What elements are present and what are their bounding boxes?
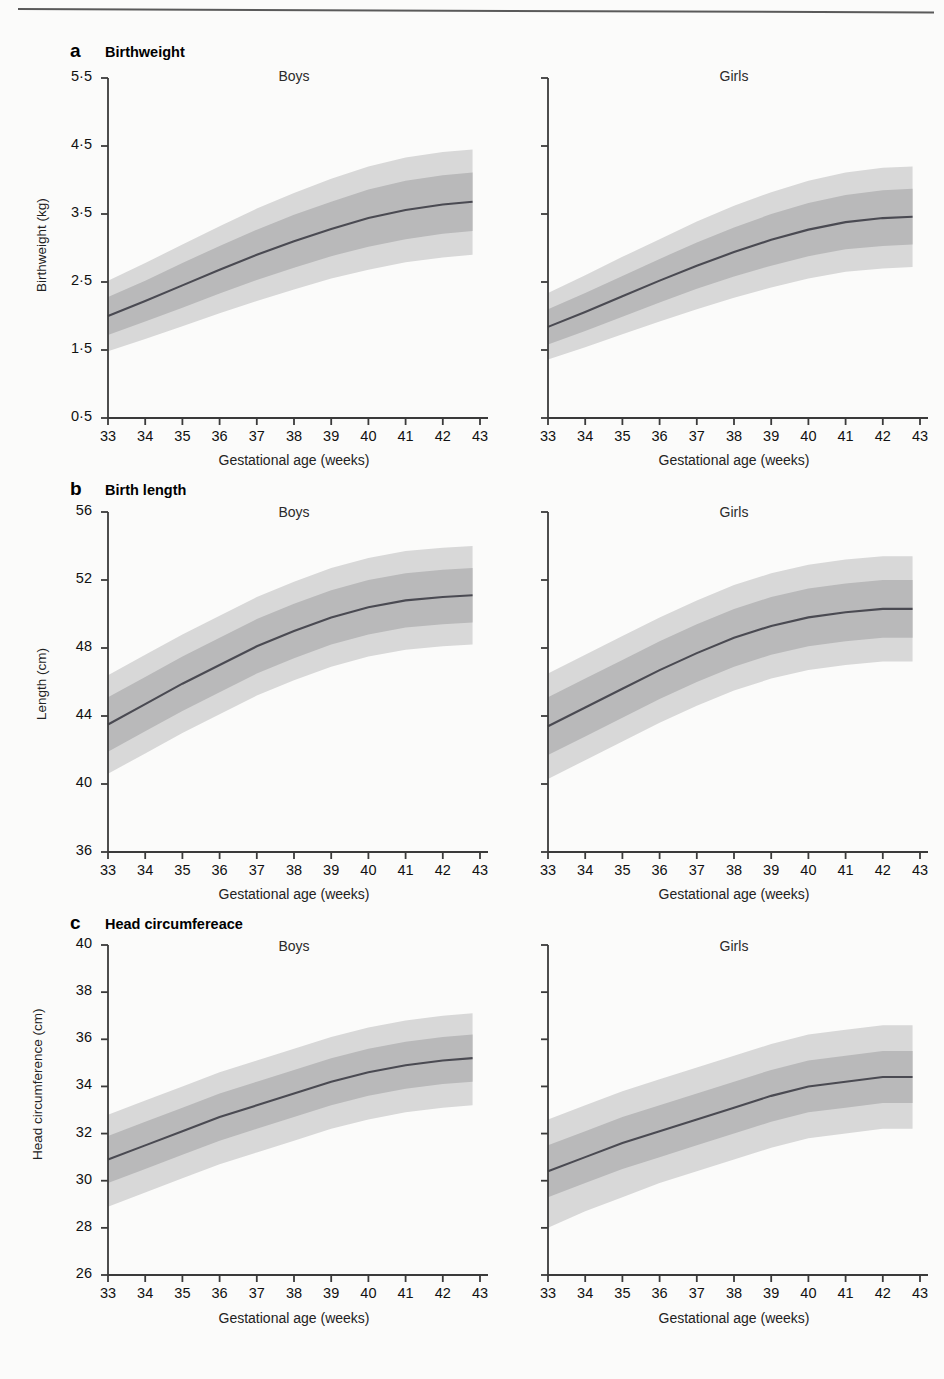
y-tick-label: 2·5	[46, 272, 92, 288]
x-axis-label: Gestational age (weeks)	[108, 1310, 480, 1326]
y-tick-label: 56	[46, 502, 92, 518]
y-tick-label: 40	[46, 935, 92, 951]
y-tick-label: 32	[46, 1124, 92, 1140]
plot-b-boys	[94, 486, 496, 878]
y-tick-label: 52	[46, 570, 92, 586]
plot-c-girls	[534, 919, 936, 1301]
x-axis-label: Gestational age (weeks)	[108, 886, 480, 902]
y-tick-label: 4·5	[46, 136, 92, 152]
plot-a-girls	[534, 52, 936, 444]
y-tick-label: 44	[46, 706, 92, 722]
y-tick-label: 36	[46, 1029, 92, 1045]
plot-c-boys	[94, 919, 496, 1301]
plot-b-girls	[534, 486, 936, 878]
x-axis-label: Gestational age (weeks)	[548, 1310, 920, 1326]
y-tick-label: 1·5	[46, 340, 92, 356]
y-tick-label: 34	[46, 1076, 92, 1092]
y-tick-label: 36	[46, 842, 92, 858]
y-tick-label: 0·5	[46, 408, 92, 424]
figure-root: aBirthweightBirthweight (kg)5·54·53·52·5…	[0, 0, 944, 1379]
x-axis-label: Gestational age (weeks)	[108, 452, 480, 468]
top-horizontal-rule	[18, 8, 934, 14]
x-axis-label: Gestational age (weeks)	[548, 452, 920, 468]
panel-letter-a: a	[70, 40, 81, 62]
y-tick-label: 38	[46, 982, 92, 998]
y-tick-label: 5·5	[46, 68, 92, 84]
y-axis-label-c: Head circumference (cm)	[30, 1008, 45, 1160]
panel-letter-b: b	[70, 478, 82, 500]
panel-letter-c: c	[70, 912, 81, 934]
x-axis-label: Gestational age (weeks)	[548, 886, 920, 902]
y-tick-label: 28	[46, 1218, 92, 1234]
y-tick-label: 26	[46, 1265, 92, 1281]
y-tick-label: 30	[46, 1171, 92, 1187]
y-tick-label: 3·5	[46, 204, 92, 220]
y-tick-label: 40	[46, 774, 92, 790]
plot-a-boys	[94, 52, 496, 444]
y-tick-label: 48	[46, 638, 92, 654]
